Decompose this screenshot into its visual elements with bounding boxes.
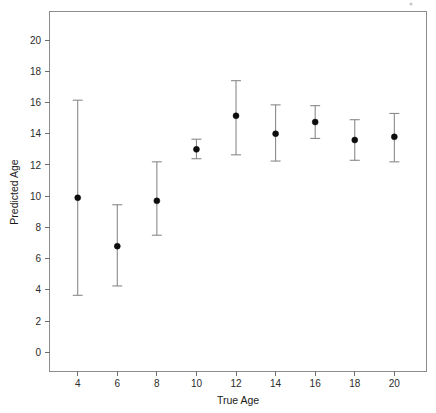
y-tick-label: 4 [35,284,41,295]
y-tick-label: 10 [30,191,42,202]
y-tick-label: 2 [35,316,41,327]
x-tick-label: 12 [230,378,242,389]
x-tick-label: 20 [389,378,401,389]
x-tick-label: 16 [310,378,322,389]
y-tick-label: 16 [30,97,42,108]
scatter-plot-with-error-bars: 02468101214161820 468101214161820 True A… [0,0,436,413]
y-tick-label: 0 [35,347,41,358]
x-tick-label: 10 [191,378,203,389]
data-point-marker [75,195,81,201]
data-point-marker [114,243,120,249]
x-tick-label: 8 [154,378,160,389]
x-tick-label: 14 [270,378,282,389]
y-tick-label: 14 [30,128,42,139]
x-tick-label: 18 [349,378,361,389]
data-point-marker [312,119,318,125]
y-tick-label: 8 [35,222,41,233]
data-point-marker [391,134,397,140]
y-tick-label: 6 [35,253,41,264]
y-axis-title: Predicted Age [8,159,20,225]
x-tick-label: 4 [75,378,81,389]
x-tick-label: 6 [115,378,121,389]
data-point-marker [154,198,160,204]
chart-figure: 02468101214161820 468101214161820 True A… [0,0,436,413]
scan-speck [409,2,412,5]
y-tick-label: 18 [30,66,42,77]
figure-background [0,0,436,413]
data-point-marker [273,131,279,137]
x-axis-title: True Age [217,394,259,406]
data-point-marker [233,113,239,119]
y-tick-label: 12 [30,160,42,171]
data-point-marker [352,137,358,143]
y-tick-label: 20 [30,35,42,46]
data-point-marker [193,146,199,152]
